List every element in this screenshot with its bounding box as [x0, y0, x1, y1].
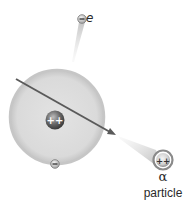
trajectory-arrowhead [107, 128, 116, 135]
alpha-symbol-label: α [157, 170, 169, 183]
alpha-charge: ++ [156, 156, 170, 166]
nucleus-charge: ++ [47, 115, 64, 126]
nucleus: ++ [46, 111, 65, 130]
alpha-particle: ++ [154, 151, 173, 170]
ejected-electron-trail [72, 22, 85, 62]
ejected-electron [78, 15, 87, 24]
particle-label: particle [141, 187, 185, 199]
electron-label: e [86, 12, 93, 24]
bound-electron [51, 160, 60, 169]
